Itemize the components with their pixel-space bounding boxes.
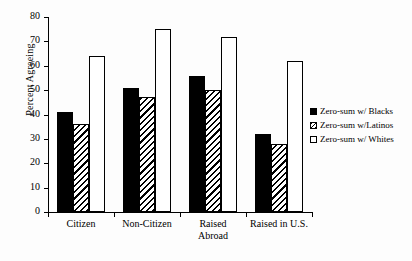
y-tick-label: 0 [35,205,40,216]
bar [123,88,139,212]
bar-group [189,17,237,212]
y-tick: 10 [44,188,49,189]
bar-group [57,17,105,212]
legend-swatch-solid-black-icon [310,108,317,115]
x-tick [246,212,247,217]
y-tick: 20 [44,163,49,164]
y-tick-label: 40 [30,108,40,119]
bar [57,112,73,212]
chart-legend: Zero-sum w/ Blacks Zero-sum w/Latinos Ze… [310,104,394,146]
bar [271,144,287,212]
y-tick-label: 20 [30,156,40,167]
bar-group [255,17,303,212]
legend-swatch-open-white-icon [310,136,317,143]
x-tick [180,212,181,217]
x-tick [48,212,49,217]
y-tick-label: 50 [30,83,40,94]
plot-area: 01020304050607080 [48,17,312,212]
legend-item-latinos: Zero-sum w/Latinos [310,118,394,132]
bar [205,90,221,212]
y-tick-label: 60 [30,59,40,70]
y-tick-label: 70 [30,34,40,45]
y-tick-label: 10 [30,181,40,192]
bar [287,61,303,212]
bar-chart: Percent Agreeing 01020304050607080 Citiz… [0,0,412,261]
bar [155,29,171,212]
y-tick-label: 30 [30,132,40,143]
y-tick-label: 80 [30,10,40,21]
y-tick: 50 [44,90,49,91]
bar [139,97,155,212]
legend-item-blacks: Zero-sum w/ Blacks [310,104,394,118]
bar [89,56,105,212]
bar-group [123,17,171,212]
legend-label-blacks: Zero-sum w/ Blacks [320,104,393,118]
y-tick: 70 [44,41,49,42]
x-axis-category-label: Raised in U.S. [235,218,323,230]
y-tick: 40 [44,115,49,116]
legend-label-whites: Zero-sum w/ Whites [320,132,394,146]
bar [73,124,89,212]
legend-label-latinos: Zero-sum w/Latinos [320,118,393,132]
x-tick [312,212,313,217]
bar [255,134,271,212]
bar [189,76,205,213]
legend-swatch-hatched-icon [310,122,317,129]
y-tick: 30 [44,139,49,140]
y-tick: 80 [44,17,49,18]
y-tick: 60 [44,66,49,67]
bar [221,37,237,213]
legend-item-whites: Zero-sum w/ Whites [310,132,394,146]
x-tick [114,212,115,217]
